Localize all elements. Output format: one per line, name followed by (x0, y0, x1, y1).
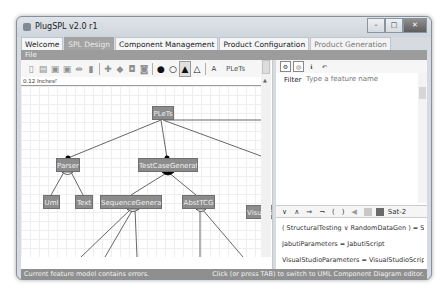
feature-list-scrollbar[interactable] (418, 73, 427, 203)
toolbar-divider (205, 63, 206, 75)
window-title: PlugSPL v2.0 r1 (35, 22, 97, 31)
feature-node-pletS[interactable]: PLeTs (152, 106, 174, 120)
title-bar: PlugSPL v2.0 r1 – □ ✕ (17, 17, 431, 37)
feature-node-uml[interactable]: Uml (43, 195, 60, 209)
not-operator-button[interactable]: ¬ (319, 208, 325, 216)
feature-node-sequencegenerator[interactable]: SequenceGenerator (100, 195, 162, 209)
mandatory-circle-icon[interactable]: ● (155, 62, 167, 76)
zoom-label: 0.12 Inches² (23, 78, 57, 84)
and-operator-button[interactable]: ∧ (294, 208, 299, 216)
add-icon[interactable]: ✚ (102, 62, 114, 76)
feature-node-text[interactable]: Text (75, 195, 93, 209)
alternative-triangle-icon[interactable]: △ (191, 62, 203, 76)
app-window: PlugSPL v2.0 r1 – □ ✕ Welcome SPL Design… (16, 16, 432, 280)
menu-file[interactable]: File (25, 50, 37, 60)
new-file-icon[interactable]: ▯ (25, 62, 37, 76)
feature-node-absttcg[interactable]: AbstTCG (182, 195, 215, 209)
root-feature-label: PLeTs (226, 65, 245, 73)
link-icon[interactable]: ⇹ (73, 62, 85, 76)
save-icon[interactable]: ▣ (49, 62, 61, 76)
or-operator-button[interactable]: ∨ (282, 208, 287, 216)
feature-panel-toolbar: ⚙ ◎ ℹ ↶ (276, 60, 427, 73)
editor-toolbar: ▯ ▤ ▣ ▣ ⇹ ▮ ✚ ◆ ◘ ◙ ● ○ ▲ △ A PLeTs (21, 60, 261, 77)
open-icon[interactable]: ▤ (37, 62, 49, 76)
sat-solver-label[interactable]: Sat-2 (388, 208, 406, 216)
scrollbar-thumb[interactable] (419, 87, 426, 99)
scrollbar-thumb[interactable] (262, 60, 270, 74)
feature-node-testcasegenerator[interactable]: TestCaseGenerator (138, 158, 198, 172)
back-arrow-icon[interactable]: ◀ (351, 208, 356, 216)
info-icon[interactable]: ℹ (306, 61, 317, 72)
gear-icon[interactable]: ⚙ (280, 61, 291, 72)
feature-filter-input[interactable] (306, 75, 416, 83)
status-message: Current feature model contains errors. (24, 269, 149, 279)
filter-label: Filter (284, 76, 301, 84)
optional-circle-icon[interactable]: ○ (167, 62, 179, 76)
link-icon[interactable]: ↶ (319, 61, 330, 72)
add-constraint-icon[interactable] (364, 208, 372, 216)
unlock-icon[interactable]: ◙ (138, 62, 150, 76)
target-icon[interactable]: ◎ (293, 61, 304, 72)
implies-operator-button[interactable]: ⇒ (306, 208, 312, 216)
left-paren-button[interactable]: ( (332, 208, 335, 216)
minimize-button[interactable]: – (367, 18, 385, 33)
switch-editor-link[interactable]: Click (or press TAB) to switch to UML Co… (212, 269, 424, 279)
feature-panel: ⚙ ◎ ℹ ↶ Filter ∨ ∧ ⇒ ¬ ( ) ◀ Sat-2 ( Str… (276, 60, 427, 269)
maximize-button[interactable]: □ (385, 18, 403, 33)
save-as-icon[interactable]: ▣ (61, 62, 73, 76)
editor-vertical-scrollbar[interactable]: ▲ (261, 60, 271, 257)
scroll-up-arrow[interactable]: ▲ (263, 77, 267, 83)
tab-welcome[interactable]: Welcome (21, 37, 63, 51)
tab-spl-design[interactable]: SPL Design (64, 37, 114, 51)
feature-model-editor: ▯ ▤ ▣ ▣ ⇹ ▮ ✚ ◆ ◘ ◙ ● ○ ▲ △ A PLeTs 0.12… (21, 60, 273, 269)
eraser-icon[interactable]: ◆ (114, 62, 126, 76)
main-tabs: Welcome SPL Design Component Management … (21, 37, 392, 50)
right-paren-button[interactable]: ) (342, 208, 345, 216)
app-icon (23, 23, 31, 31)
lock-icon[interactable]: ◘ (126, 62, 138, 76)
constraint-item[interactable]: VisualStudioParameters = VisualStudioScr… (282, 252, 424, 268)
or-triangle-filled-icon[interactable]: ▲ (179, 61, 191, 77)
menu-bar: File (21, 50, 427, 60)
toolbar-divider (152, 63, 153, 75)
close-button[interactable]: ✕ (403, 18, 427, 33)
constraint-toolbar: ∨ ∧ ⇒ ¬ ( ) ◀ Sat-2 (276, 205, 427, 218)
feature-node-parser[interactable]: Parser (56, 158, 80, 172)
tab-product-generation[interactable]: Product Generation (310, 37, 391, 51)
tab-product-configuration[interactable]: Product Configuration (219, 37, 309, 51)
toolbar-divider (99, 63, 100, 75)
filter-row: Filter (284, 76, 301, 84)
trash-icon[interactable]: ▮ (85, 62, 97, 76)
status-bar: Current feature model contains errors. C… (21, 269, 427, 279)
remove-constraint-icon[interactable] (376, 208, 384, 216)
constraint-item[interactable]: JabutiParameters = JabutiScript (282, 236, 424, 252)
constraint-item[interactable]: ( StructuralTesting ∨ RandomDataGen ) = … (282, 220, 424, 236)
diagram-canvas[interactable]: PLeTs Parser TestCaseGenerator Uml Text … (21, 86, 261, 257)
tab-component-management[interactable]: Component Management (115, 37, 218, 51)
text-tool-icon[interactable]: A (208, 62, 220, 76)
